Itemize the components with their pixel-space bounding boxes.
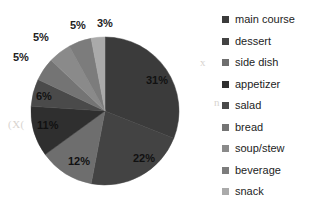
pie-slice-group xyxy=(31,37,179,185)
slice-label-main-course: 31% xyxy=(146,74,168,86)
scan-ghost-mark: n xyxy=(214,96,220,108)
slice-label-side-dish: 12% xyxy=(68,155,90,167)
legend-item-label: dessert xyxy=(235,36,271,47)
slice-label-salad: 6% xyxy=(36,90,52,102)
legend-swatch-icon xyxy=(222,81,229,88)
legend-item[interactable]: dessert xyxy=(222,31,295,53)
pie-chart: 31% 22% 12% 11% 6% 5% 5% 5% 3% xyxy=(0,0,210,222)
legend-swatch-icon xyxy=(222,102,229,109)
slice-label-snack: 3% xyxy=(97,17,113,29)
pie-svg xyxy=(30,36,180,186)
legend-item-label: beverage xyxy=(235,165,281,176)
legend-swatch-icon xyxy=(222,16,229,23)
legend-item[interactable]: side dish xyxy=(222,52,295,74)
legend-swatch-icon xyxy=(222,38,229,45)
legend-item-label: snack xyxy=(235,186,264,197)
legend-item-label: bread xyxy=(235,122,263,133)
legend-swatch-icon xyxy=(222,124,229,131)
legend-item-label: salad xyxy=(235,100,261,111)
slice-label-beverage: 5% xyxy=(70,19,86,31)
legend-item-label: main course xyxy=(235,14,295,25)
legend: main coursedessertside dishappetizersala… xyxy=(222,9,295,203)
legend-item[interactable]: salad xyxy=(222,95,295,117)
legend-item[interactable]: soup/stew xyxy=(222,138,295,160)
legend-swatch-icon xyxy=(222,145,229,152)
legend-item-label: side dish xyxy=(235,57,278,68)
legend-item[interactable]: snack xyxy=(222,181,295,203)
legend-item[interactable]: beverage xyxy=(222,160,295,182)
pie-graphic xyxy=(30,36,180,186)
legend-swatch-icon xyxy=(222,167,229,174)
legend-swatch-icon xyxy=(222,59,229,66)
legend-item[interactable]: appetizer xyxy=(222,74,295,96)
legend-item-label: soup/stew xyxy=(235,143,285,154)
slice-label-dessert: 22% xyxy=(133,152,155,164)
slice-label-soup-stew: 5% xyxy=(33,31,49,43)
legend-item[interactable]: bread xyxy=(222,117,295,139)
slice-label-bread: 5% xyxy=(13,51,29,63)
slice-label-appetizer: 11% xyxy=(37,119,58,131)
legend-item-label: appetizer xyxy=(235,79,280,90)
legend-swatch-icon xyxy=(222,188,229,195)
legend-item[interactable]: main course xyxy=(222,9,295,31)
